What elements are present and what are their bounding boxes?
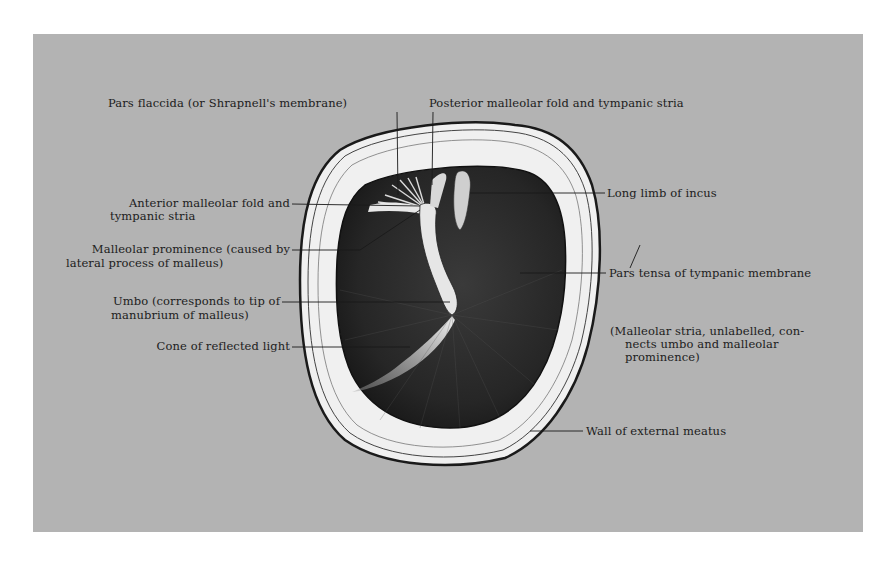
label-malleolar-prominence-1: Malleolar prominence (caused by <box>40 243 290 256</box>
label-malleolar-prominence-2: lateral process of malleus) <box>66 257 223 270</box>
label-posterior-malleolar-fold: Posterior malleolar fold and tympanic st… <box>429 97 684 110</box>
label-umbo-1: Umbo (corresponds to tip of <box>80 295 280 308</box>
label-long-limb-incus: Long limb of incus <box>607 187 717 200</box>
label-malleolar-stria-3: prominence) <box>625 351 700 364</box>
label-pars-flaccida: Pars flaccida (or Shrapnell's membrane) <box>108 97 347 110</box>
label-anterior-malleolar-fold-2: tympanic stria <box>110 210 195 223</box>
label-cone-of-light: Cone of reflected light <box>100 340 290 353</box>
label-wall-external-meatus: Wall of external meatus <box>586 425 726 438</box>
label-umbo-2: manubrium of malleus) <box>111 309 249 322</box>
label-pars-tensa: Pars tensa of tympanic membrane <box>609 267 811 280</box>
tympanic-membrane-illustration <box>0 0 893 562</box>
